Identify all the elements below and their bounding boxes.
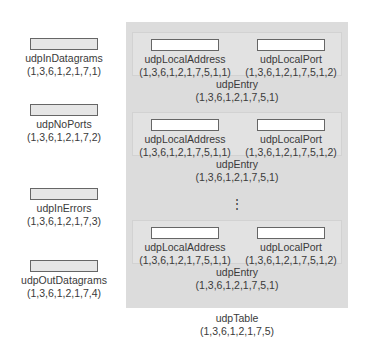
column-value-box [257, 119, 325, 131]
column-udplocaladdress: udpLocalAddress (1,3,6,1,2,1,7,5,1,1) [133, 119, 237, 159]
column-label: udpLocalAddress [133, 133, 237, 146]
scalar-udpnoports: udpNoPorts (1,3,6,1,2,1,7,2) [14, 104, 114, 144]
udp-entry-2: udpLocalAddress (1,3,6,1,2,1,7,5,1,1) ud… [132, 112, 342, 186]
column-label: udpLocalPort [239, 133, 343, 146]
scalar-udpinerrors: udpInErrors (1,3,6,1,2,1,7,3) [14, 188, 114, 228]
scalar-label: udpNoPorts [14, 118, 114, 131]
entry-columns-area: udpLocalAddress (1,3,6,1,2,1,7,5,1,1) ud… [132, 112, 342, 156]
column-value-box [151, 39, 219, 51]
udp-entry-3: udpLocalAddress (1,3,6,1,2,1,7,5,1,1) ud… [132, 220, 342, 294]
column-udplocaladdress: udpLocalAddress (1,3,6,1,2,1,7,5,1,1) [133, 227, 237, 267]
scalar-value-box [30, 104, 98, 116]
column-value-box [151, 227, 219, 239]
column-label: udpLocalPort [239, 241, 343, 254]
vertical-ellipsis-icon: ⋮ [126, 196, 348, 212]
column-udplocalport: udpLocalPort (1,3,6,1,2,1,7,5,1,2) [239, 39, 343, 79]
entry-label: udpEntry (1,3,6,1,2,1,7,5,1) [132, 158, 342, 184]
entry-name: udpEntry [132, 78, 342, 91]
table-oid: (1,3,6,1,2,1,7,5) [126, 325, 348, 338]
column-label: udpLocalAddress [133, 53, 237, 66]
entry-columns-area: udpLocalAddress (1,3,6,1,2,1,7,5,1,1) ud… [132, 220, 342, 264]
scalar-value-box [30, 38, 98, 50]
scalar-oid: (1,3,6,1,2,1,7,2) [14, 131, 114, 144]
entry-label: udpEntry (1,3,6,1,2,1,7,5,1) [132, 78, 342, 104]
column-value-box [151, 119, 219, 131]
scalar-value-box [30, 188, 98, 200]
udp-entry-1: udpLocalAddress (1,3,6,1,2,1,7,5,1,1) ud… [132, 32, 342, 106]
column-label: udpLocalPort [239, 53, 343, 66]
table-name: udpTable [126, 312, 348, 325]
scalar-oid: (1,3,6,1,2,1,7,3) [14, 215, 114, 228]
entry-oid: (1,3,6,1,2,1,7,5,1) [132, 171, 342, 184]
column-value-box [257, 39, 325, 51]
scalar-label: udpInDatagrams [14, 52, 114, 65]
entry-columns-area: udpLocalAddress (1,3,6,1,2,1,7,5,1,1) ud… [132, 32, 342, 76]
scalar-oid: (1,3,6,1,2,1,7,1) [14, 65, 114, 78]
column-udplocalport: udpLocalPort (1,3,6,1,2,1,7,5,1,2) [239, 119, 343, 159]
scalar-label: udpInErrors [14, 202, 114, 215]
udp-table-label: udpTable (1,3,6,1,2,1,7,5) [126, 312, 348, 338]
scalar-udpindatagrams: udpInDatagrams (1,3,6,1,2,1,7,1) [14, 38, 114, 78]
entry-name: udpEntry [132, 266, 342, 279]
column-label: udpLocalAddress [133, 241, 237, 254]
column-value-box [257, 227, 325, 239]
entry-oid: (1,3,6,1,2,1,7,5,1) [132, 91, 342, 104]
scalar-udpoutdatagrams: udpOutDatagrams (1,3,6,1,2,1,7,4) [14, 260, 114, 300]
column-udplocaladdress: udpLocalAddress (1,3,6,1,2,1,7,5,1,1) [133, 39, 237, 79]
entry-oid: (1,3,6,1,2,1,7,5,1) [132, 279, 342, 292]
ellipsis-glyph: ⋮ [126, 196, 348, 212]
scalar-oid: (1,3,6,1,2,1,7,4) [14, 287, 114, 300]
scalar-value-box [30, 260, 98, 272]
entry-label: udpEntry (1,3,6,1,2,1,7,5,1) [132, 266, 342, 292]
entry-name: udpEntry [132, 158, 342, 171]
scalar-label: udpOutDatagrams [14, 274, 114, 287]
udp-table-panel: udpLocalAddress (1,3,6,1,2,1,7,5,1,1) ud… [126, 22, 348, 308]
column-udplocalport: udpLocalPort (1,3,6,1,2,1,7,5,1,2) [239, 227, 343, 267]
